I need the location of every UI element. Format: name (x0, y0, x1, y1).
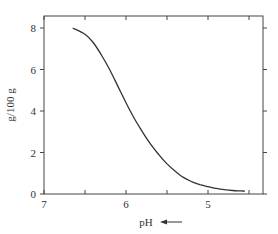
x-axis-tick-labels: 765 (41, 198, 211, 210)
x-axis-ticks (44, 16, 249, 194)
solubility-ph-chart: 765 02468 g/100 g pH (0, 0, 278, 234)
y-tick-label: 8 (31, 22, 37, 34)
plot-frame (44, 16, 263, 194)
y-tick-label: 6 (31, 64, 37, 76)
y-axis-label: g/100 g (4, 88, 16, 122)
y-tick-label: 2 (31, 147, 37, 159)
x-axis-label: pH (139, 216, 153, 228)
x-tick-label: 6 (123, 198, 129, 210)
x-tick-label: 7 (41, 198, 47, 210)
x-tick-label: 5 (205, 198, 211, 210)
solubility-curve (73, 28, 245, 191)
direction-arrow-icon (160, 220, 182, 225)
y-axis-ticks (40, 28, 267, 194)
y-tick-label: 0 (31, 188, 37, 200)
y-axis-tick-labels: 02468 (31, 22, 37, 200)
y-tick-label: 4 (31, 105, 37, 117)
